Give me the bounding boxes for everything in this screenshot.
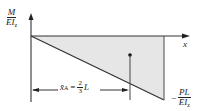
min-value-label: − PL EIz <box>171 88 191 108</box>
min-value-denominator: EI <box>179 97 188 107</box>
dimension-arrow-left-icon <box>32 88 39 92</box>
y-label-denominator: EI <box>6 17 15 27</box>
centroid-equals: = <box>70 83 75 92</box>
centroid-subscript: A <box>64 85 68 91</box>
centroid-frac-denominator: 3 <box>78 88 82 95</box>
centroid-var: L <box>84 83 89 92</box>
x-axis-arrow-icon <box>182 34 190 39</box>
dimension-arrow-right-icon <box>122 88 129 92</box>
min-value-subscript: z <box>187 102 190 108</box>
centroid-distance-label: x̄A = 2 3 L <box>60 80 89 95</box>
y-label-subscript: z <box>15 22 18 28</box>
y-axis-label: M EIz <box>6 8 17 28</box>
x-axis-label: x <box>183 40 187 49</box>
y-axis-arrow-icon <box>29 13 34 20</box>
min-value-sign: − <box>171 94 176 103</box>
